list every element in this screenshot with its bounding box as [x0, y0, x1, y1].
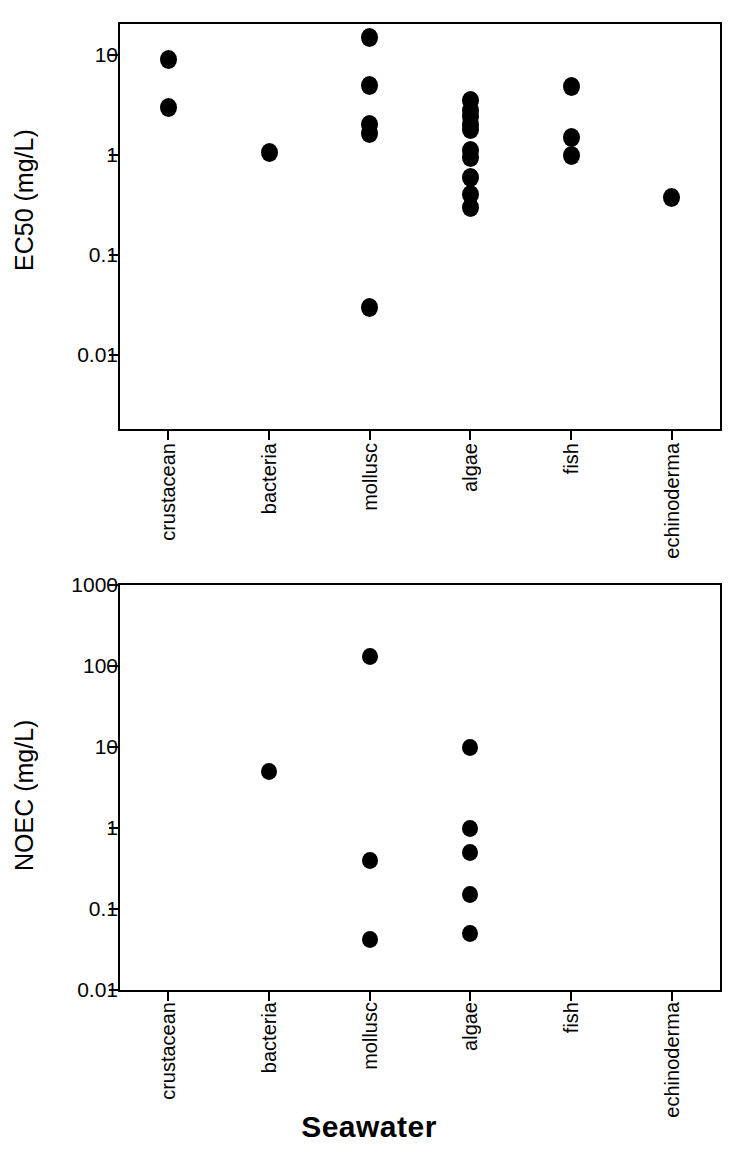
x-axis-label-noec-bacteria: bacteria	[258, 1002, 281, 1077]
x-axis-label-noec-fish: fish	[560, 1002, 583, 1037]
x-axis-label-text: crustacean	[157, 1002, 180, 1100]
x-axis-label-text: bacteria	[258, 1002, 281, 1073]
panel-noec: NOEC (mg/L) 10001001010.10.01 crustacean…	[0, 0, 738, 1173]
figure-title-seawater: Seawater	[0, 1110, 738, 1144]
x-axis-label-text: fish	[560, 1002, 583, 1033]
x-axis-label-noec-echinoderma: echinoderma	[660, 1002, 683, 1122]
x-axis-label-noec-crustacean: crustacean	[157, 1002, 180, 1104]
x-axis-label-noec-algae: algae	[459, 1002, 482, 1055]
x-axis-label-noec-mollusc: mollusc	[358, 1002, 381, 1074]
x-axis-labels-noec: crustaceanbacteriamolluscalgaefishechino…	[0, 0, 738, 1173]
x-axis-label-text: echinoderma	[660, 1002, 683, 1118]
x-axis-label-text: mollusc	[358, 1002, 381, 1070]
figure-seawater-toxicity: EC50 (mg/L) 1010.10.01 crustaceanbacteri…	[0, 0, 738, 1173]
x-axis-label-text: algae	[459, 1002, 482, 1051]
